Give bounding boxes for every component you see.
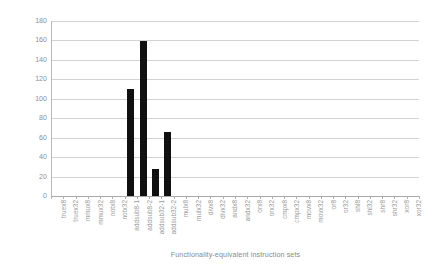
x-axis-tick-label: notx32 xyxy=(121,200,128,220)
x-axis-tick-label: notx8 xyxy=(109,200,116,216)
gridline xyxy=(51,118,419,119)
plot-area xyxy=(51,21,419,196)
x-axis-tick-label: movx32 xyxy=(317,200,324,223)
bar xyxy=(127,89,134,196)
x-axis-tick xyxy=(198,196,199,199)
x-axis-tick-label: divx8 xyxy=(207,200,214,215)
x-axis-tick-label: addsub8-2 xyxy=(146,200,153,231)
x-axis-tick-label: movx8 xyxy=(305,200,312,219)
x-axis-tick xyxy=(63,196,64,199)
x-axis-tick-label: orx8 xyxy=(256,200,263,213)
x-axis-tick-label: mmux32 xyxy=(97,200,104,225)
bar xyxy=(152,169,159,196)
x-axis-tick-label: or8 xyxy=(330,200,337,209)
x-axis-tick xyxy=(149,196,150,199)
y-axis-tick-label: 100 xyxy=(21,95,47,103)
gridline xyxy=(51,60,419,61)
x-axis-tick xyxy=(235,196,236,199)
x-axis-tick xyxy=(309,196,310,199)
x-axis-tick xyxy=(223,196,224,199)
y-axis-line xyxy=(51,21,52,197)
x-axis-title: Functionality-equivalent instruction set… xyxy=(51,250,420,259)
gridline xyxy=(51,177,419,178)
x-axis-tick xyxy=(358,196,359,199)
x-axis-tick-label: shr32 xyxy=(391,200,398,216)
x-axis-tick xyxy=(186,196,187,199)
x-axis-tick-label: orx32 xyxy=(268,200,275,216)
x-axis-tick xyxy=(210,196,211,199)
x-axis-tick-label: truex8 xyxy=(60,200,67,218)
x-axis-tick-label: truex32 xyxy=(72,200,79,222)
x-axis-tick xyxy=(88,196,89,199)
x-axis-tick xyxy=(76,196,77,199)
x-axis-tick-label: addsub8-1 xyxy=(133,200,140,231)
y-axis-tick-label: 180 xyxy=(21,17,47,25)
x-axis-tick-label: or32 xyxy=(342,200,349,213)
x-axis-tick xyxy=(247,196,248,199)
y-axis-tick-label: 20 xyxy=(21,173,47,181)
y-axis-tick-label: 40 xyxy=(21,153,47,161)
x-axis-tick xyxy=(174,196,175,199)
x-axis-tick-label: divx32 xyxy=(219,200,226,219)
x-axis-tick-label: addsub32-1 xyxy=(158,200,165,234)
y-axis-tick-labels: 180160140120100806040200 xyxy=(17,0,47,267)
bar xyxy=(140,41,147,196)
y-axis-tick-label: 140 xyxy=(21,56,47,64)
x-axis-tick-label: andx32 xyxy=(244,200,251,221)
x-axis-tick xyxy=(272,196,273,199)
y-axis-tick-label: 0 xyxy=(21,192,47,200)
x-axis-tick xyxy=(296,196,297,199)
y-axis-tick-label: 120 xyxy=(21,75,47,83)
x-axis-tick xyxy=(137,196,138,199)
gridline xyxy=(51,40,419,41)
x-axis-tick-label: cmpx8 xyxy=(281,200,288,219)
x-axis-tick xyxy=(112,196,113,199)
gridline xyxy=(51,79,419,80)
x-axis-tick xyxy=(100,196,101,199)
x-axis-tick-label: shl32 xyxy=(366,200,373,216)
gridline xyxy=(51,21,419,22)
x-axis-tick xyxy=(382,196,383,199)
gridline xyxy=(51,138,419,139)
x-axis-tick xyxy=(51,196,52,199)
x-axis-tick xyxy=(394,196,395,199)
x-axis-tick-label: cmpx32 xyxy=(293,200,300,223)
y-axis-tick-label: 60 xyxy=(21,134,47,142)
x-axis-tick xyxy=(284,196,285,199)
x-axis-tick-label: shl8 xyxy=(354,200,361,212)
x-axis-tick xyxy=(161,196,162,199)
x-axis-tick-label: mulx8 xyxy=(182,200,189,217)
gridline xyxy=(51,99,419,100)
gridline xyxy=(51,157,419,158)
x-axis-tick-label: mulx32 xyxy=(195,200,202,221)
x-axis-tick xyxy=(407,196,408,199)
x-axis-tick xyxy=(260,196,261,199)
y-axis-tick-label: 160 xyxy=(21,36,47,44)
x-axis-tick xyxy=(419,196,420,199)
y-axis-tick-label: 80 xyxy=(21,114,47,122)
x-axis-tick-label: xor32 xyxy=(415,200,422,216)
bar xyxy=(164,132,171,196)
chi-square-bar-chart: Chi-square value 18016014012010080604020… xyxy=(0,0,441,267)
x-axis-tick-label: andx8 xyxy=(231,200,238,218)
x-axis-tick xyxy=(321,196,322,199)
x-axis-tick-label: mmux8 xyxy=(84,200,91,221)
x-axis-tick-label: shr8 xyxy=(379,200,386,213)
x-axis-tick-label: xor8 xyxy=(403,200,410,213)
x-axis-tick xyxy=(345,196,346,199)
x-axis-tick-label: addsub32-2 xyxy=(170,200,177,234)
x-axis-tick xyxy=(333,196,334,199)
